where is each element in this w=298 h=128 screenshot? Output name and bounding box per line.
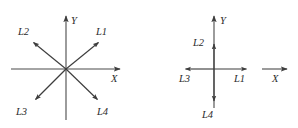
left-ray-label-L1: L1	[95, 26, 107, 37]
right-x-axis-label: X	[271, 73, 279, 84]
left-ray-label-L2: L2	[17, 26, 30, 37]
left-ray-L2	[34, 43, 67, 70]
figure-canvas: Y X L1 L2 L3 L4 Y X L1 L2 L3	[0, 0, 298, 128]
right-panel: Y X L1 L2 L3 L4	[178, 15, 287, 120]
left-ray-L1	[66, 43, 99, 70]
vector-diagram-figure: Y X L1 L2 L3 L4 Y X L1 L2 L3	[0, 0, 298, 128]
left-ray-label-L4: L4	[96, 106, 109, 117]
right-ray-label-L1: L1	[233, 73, 245, 84]
right-ray-label-L4: L4	[201, 109, 214, 120]
right-y-axis-label: Y	[220, 15, 227, 26]
left-ray-label-L3: L3	[15, 106, 27, 117]
left-ray-L3	[36, 69, 67, 100]
left-y-axis-label: Y	[71, 15, 78, 26]
right-ray-label-L2: L2	[192, 37, 205, 48]
left-ray-L4	[66, 69, 98, 100]
left-panel: Y X L1 L2 L3 L4	[11, 15, 120, 120]
right-ray-label-L3: L3	[178, 73, 190, 84]
left-x-axis-label: X	[110, 73, 118, 84]
